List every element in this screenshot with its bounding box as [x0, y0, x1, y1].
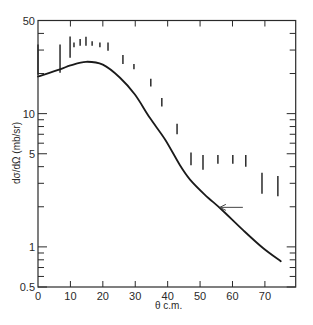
plot-frame [38, 21, 296, 288]
x-tick-label: 20 [97, 290, 109, 302]
x-tick-label: 10 [64, 290, 76, 302]
x-tick-label: 0 [35, 290, 41, 302]
y-tick-label: 10 [23, 108, 35, 120]
x-tick-label: 60 [226, 290, 238, 302]
x-axis-title: θ c.m. [155, 300, 182, 311]
x-tick-label: 50 [194, 290, 206, 302]
y-tick-label: 1 [29, 241, 35, 253]
y-axis-ticks: 0.5151050 [20, 15, 296, 294]
y-tick-label: 5 [29, 148, 35, 160]
x-tick-label: 70 [259, 290, 271, 302]
y-tick-label: 50 [23, 15, 35, 27]
y-tick-label: 0.5 [20, 281, 35, 293]
cross-section-chart: 0.5151050 010203040506070 θ c.m. dσ/dΩ (… [0, 0, 313, 325]
x-axis-ticks: 010203040506070 [35, 21, 271, 303]
y-axis-title: dσ/dΩ (mb/sr) [11, 122, 22, 184]
data-error-bars [38, 37, 278, 197]
x-tick-label: 30 [129, 290, 141, 302]
theory-curve [38, 62, 281, 262]
annotation-arrow [220, 204, 243, 210]
